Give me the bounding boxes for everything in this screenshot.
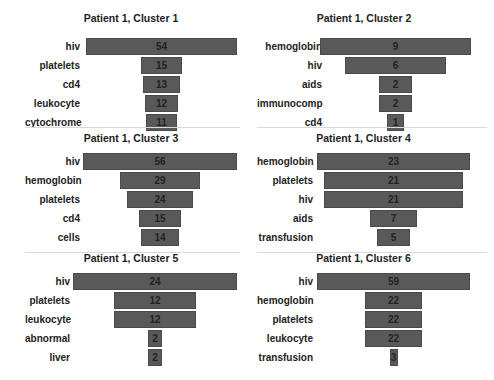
funnel-bar: 21 [324, 191, 464, 208]
funnel-bar: 3 [390, 349, 398, 366]
funnel-bar: 22 [365, 311, 422, 328]
category-label: transfusion [257, 352, 313, 363]
funnel-bar: 21 [324, 172, 464, 189]
funnel-row: hiv59 [257, 273, 487, 291]
funnel-bar: 5 [377, 229, 410, 246]
funnel-row: leukocyte12 [25, 311, 240, 329]
funnel-bar: 2 [148, 330, 162, 347]
funnel-bar: 14 [141, 229, 180, 246]
category-label: aids [257, 213, 313, 224]
bar-value-label: 5 [377, 232, 410, 243]
funnel-bar: 22 [365, 292, 422, 309]
funnel-panel-cluster-4: Patient 1, Cluster 4hemoglobin23platelet… [257, 127, 487, 251]
funnel-panel-cluster-6: Patient 1, Cluster 6hiv59hemoglobin22pla… [257, 252, 487, 376]
funnel-bar: 56 [83, 153, 237, 170]
bar-value-label: 24 [73, 276, 237, 287]
category-label: platelets [25, 295, 70, 306]
funnel-bar: 2 [148, 349, 162, 366]
funnel-row: hiv54 [25, 38, 240, 56]
bar-value-label: 12 [145, 98, 179, 109]
funnel-row: platelets15 [25, 57, 240, 75]
category-label: liver [25, 352, 70, 363]
funnel-bar: 9 [320, 38, 471, 55]
funnel-row: hemoglobin22 [257, 292, 487, 310]
bar-value-label: 15 [139, 213, 180, 224]
funnel-row: hemoglobin23 [257, 153, 487, 171]
funnel-row: liver2 [25, 349, 240, 367]
funnel-row: aids7 [257, 210, 487, 228]
bar-value-label: 13 [143, 79, 179, 90]
bar-value-label: 12 [114, 295, 196, 306]
bar-value-label: 2 [379, 79, 413, 90]
bar-value-label: 9 [320, 41, 471, 52]
funnel-panel-cluster-1: Patient 1, Cluster 1hiv54platelets15cd41… [25, 0, 240, 123]
bar-value-label: 21 [324, 175, 464, 186]
funnel-row: platelets12 [25, 292, 240, 310]
funnel-bar: 23 [317, 153, 470, 170]
funnel-row: cells14 [25, 229, 240, 247]
panel-title: Patient 1, Cluster 4 [257, 132, 470, 144]
funnel-row: hiv21 [257, 191, 487, 209]
funnel-bar: 29 [120, 172, 200, 189]
funnel-row: hemoglobin9 [257, 38, 487, 56]
category-label: cells [25, 232, 80, 243]
funnel-panel-cluster-3: Patient 1, Cluster 3hiv56hemoglobin29pla… [25, 127, 240, 251]
funnel-bar: 7 [370, 210, 417, 227]
bar-value-label: 2 [148, 333, 162, 344]
category-label: hiv [25, 41, 80, 52]
bar-value-label: 2 [148, 352, 162, 363]
funnel-row: hiv6 [257, 57, 487, 75]
funnel-bar: 15 [141, 57, 183, 74]
bar-value-label: 15 [141, 60, 183, 71]
funnel-row: aids2 [257, 76, 487, 94]
bar-value-label: 7 [370, 213, 417, 224]
funnel-panel-cluster-2: Patient 1, Cluster 2hemoglobin9hiv6aids2… [257, 0, 487, 123]
funnel-bar: 22 [365, 330, 422, 347]
bar-value-label: 2 [379, 98, 413, 109]
category-label: hiv [257, 194, 313, 205]
category-label: cd4 [25, 79, 80, 90]
panel-title: Patient 1, Cluster 5 [25, 252, 237, 264]
category-label: hemoglobin [257, 156, 313, 167]
panel-title: Patient 1, Cluster 3 [25, 132, 237, 144]
bar-value-label: 14 [141, 232, 180, 243]
bar-value-label: 54 [86, 41, 237, 52]
bar-value-label: 12 [114, 314, 196, 325]
funnel-bar: 12 [114, 292, 196, 309]
funnel-bar: 15 [139, 210, 180, 227]
funnel-row: cd415 [25, 210, 240, 228]
funnel-bar: 13 [143, 76, 179, 93]
category-label: hiv [257, 276, 313, 287]
funnel-row: abnormal2 [25, 330, 240, 348]
bar-value-label: 29 [120, 175, 200, 186]
funnel-bar: 2 [379, 95, 413, 112]
category-label: aids [257, 79, 322, 90]
bar-value-label: 21 [324, 194, 464, 205]
category-label: hemoglobin [25, 175, 80, 186]
funnel-row: cd413 [25, 76, 240, 94]
funnel-panel-cluster-5: Patient 1, Cluster 5hiv24platelets12leuk… [25, 252, 240, 376]
category-label: abnormal [25, 333, 70, 344]
category-label: leukocyte [25, 98, 80, 109]
funnel-row: leukocyte12 [25, 95, 240, 113]
category-label: platelets [257, 175, 313, 186]
funnel-row: hemoglobin29 [25, 172, 240, 190]
funnel-bar: 12 [145, 95, 179, 112]
bar-value-label: 24 [127, 194, 193, 205]
category-label: hemoglobin [257, 41, 322, 52]
bar-value-label: 3 [390, 352, 398, 363]
bar-value-label: 22 [365, 314, 422, 325]
funnel-bar: 24 [127, 191, 193, 208]
funnel-row: transfusion3 [257, 349, 487, 367]
panel-title: Patient 1, Cluster 2 [257, 12, 471, 24]
funnel-bar: 54 [86, 38, 237, 55]
funnel-bar: 12 [114, 311, 196, 328]
category-label: leukocyte [25, 314, 70, 325]
category-label: hiv [257, 60, 322, 71]
funnel-bar: 24 [73, 273, 237, 290]
bar-value-label: 22 [365, 333, 422, 344]
category-label: leukocyte [257, 333, 313, 344]
funnel-row: platelets24 [25, 191, 240, 209]
bar-value-label: 22 [365, 295, 422, 306]
funnel-bar: 59 [317, 273, 470, 290]
